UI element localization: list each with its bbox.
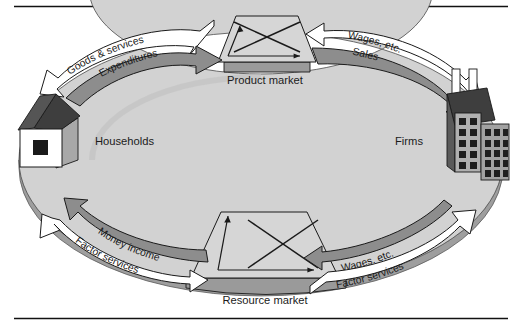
firms-label: Firms xyxy=(395,135,423,147)
resource-market-label: Resource market xyxy=(222,294,308,306)
circular-flow-figure: Product market Resource market xyxy=(0,0,521,333)
factory-block-left xyxy=(455,113,481,172)
house-window xyxy=(33,140,48,155)
product-market-base xyxy=(224,62,310,72)
households-label: Households xyxy=(95,135,154,147)
product-market-node[interactable]: Product market xyxy=(218,16,316,86)
circular-flow-diagram: Product market Resource market xyxy=(0,0,521,333)
product-market-label: Product market xyxy=(227,74,304,86)
